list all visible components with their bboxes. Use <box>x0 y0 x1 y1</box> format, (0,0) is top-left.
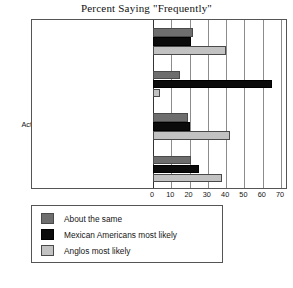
plot-area <box>31 19 287 189</box>
bar-group <box>32 63 286 106</box>
bar <box>153 46 226 55</box>
chart-figure: Percent Saying "Frequently" Have many st… <box>0 0 293 288</box>
bar <box>153 122 190 131</box>
x-tick-label: 10 <box>166 190 174 199</box>
legend-label: Mexican Americans most likely <box>64 230 177 240</box>
legend-item: Mexican Americans most likely <box>41 229 177 240</box>
legend-item: Anglos most likely <box>41 245 130 256</box>
legend-label: About the same <box>64 214 122 224</box>
x-tick-label: 20 <box>185 190 193 199</box>
bar-groups <box>32 20 286 188</box>
bar <box>153 174 222 183</box>
legend-swatch <box>41 213 54 224</box>
x-tick-label: 30 <box>203 190 211 199</box>
bar <box>153 89 160 98</box>
x-tick-label: 60 <box>258 190 266 199</box>
bar <box>153 113 188 122</box>
bar-group <box>32 105 286 148</box>
chart-title: Percent Saying "Frequently" <box>0 2 293 14</box>
legend-item: About the same <box>41 213 122 224</box>
x-axis-tick-labels: 010203040506070 <box>0 190 293 202</box>
bar <box>153 165 199 174</box>
bar-group <box>32 148 286 191</box>
bar <box>153 37 191 46</box>
x-tick-label: 40 <box>221 190 229 199</box>
bar <box>153 156 191 165</box>
x-tick-label: 70 <box>276 190 284 199</box>
legend-swatch <box>41 245 54 256</box>
legend-label: Anglos most likely <box>64 246 130 256</box>
bar <box>153 80 272 89</box>
bar <box>153 131 230 140</box>
chart-legend: About the sameMexican Americans most lik… <box>31 205 223 263</box>
bar-group <box>32 20 286 63</box>
x-tick-label: 0 <box>150 190 154 199</box>
legend-swatch <box>41 229 54 240</box>
bar <box>153 28 193 37</box>
x-tick-label: 50 <box>239 190 247 199</box>
bar <box>153 71 180 80</box>
